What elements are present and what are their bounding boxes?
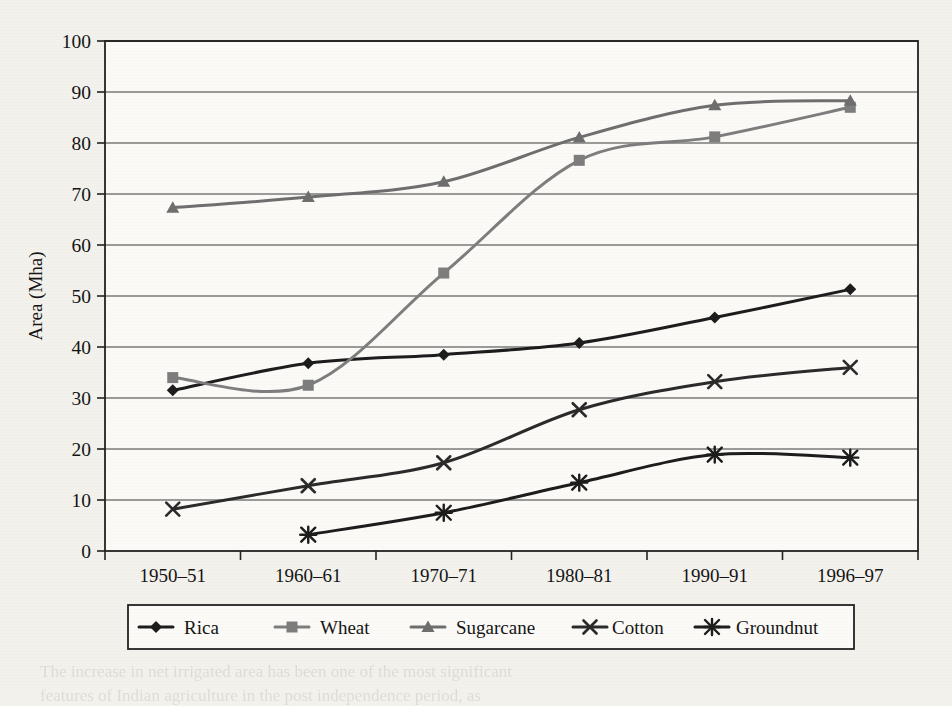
- x-tick-label-2: 1970–71: [411, 565, 478, 586]
- square-marker: [303, 380, 314, 391]
- series-wheat-marker-1: [303, 380, 314, 391]
- legend-wheat-marker-0: [287, 622, 298, 633]
- series-groundnut-marker-0: [300, 527, 316, 543]
- legend-label-cotton: Cotton: [612, 617, 664, 638]
- x-tick-label-5: 1996–97: [817, 565, 884, 586]
- x-tick-label-4: 1990–91: [682, 565, 749, 586]
- y-tick-label-50: 50: [72, 286, 92, 307]
- y-tick-label-30: 30: [72, 388, 92, 409]
- square-marker: [167, 372, 178, 383]
- x-tick-label-0: 1950–51: [140, 565, 207, 586]
- x-tick-label-3: 1980–81: [546, 565, 613, 586]
- square-marker: [709, 131, 720, 142]
- legend-groundnut-marker-0: [704, 619, 720, 635]
- legend-label-wheat: Wheat: [320, 617, 370, 638]
- y-axis-title: Area (Mha): [25, 251, 47, 340]
- legend: RicaWheatSugarcaneCottonGroundnut: [128, 605, 854, 649]
- legend-label-groundnut: Groundnut: [736, 617, 819, 638]
- square-marker: [574, 155, 585, 166]
- series-groundnut-marker-2: [571, 475, 587, 491]
- y-tick-label-10: 10: [72, 490, 92, 511]
- legend-label-sugarcane: Sugarcane: [456, 617, 535, 638]
- series-groundnut-marker-4: [842, 450, 858, 466]
- y-tick-label-0: 0: [81, 541, 91, 562]
- y-tick-label-40: 40: [72, 337, 92, 358]
- series-groundnut-marker-1: [436, 505, 452, 521]
- series-wheat-marker-4: [709, 131, 720, 142]
- y-tick-label-70: 70: [72, 184, 92, 205]
- y-axis: 0102030405060708090100: [62, 31, 105, 562]
- series-wheat-marker-2: [438, 268, 449, 279]
- y-tick-label-20: 20: [72, 439, 92, 460]
- x-axis: 1950–511960–611970–711980–811990–911996–…: [105, 551, 918, 586]
- bleed-line-10: features of Indian agriculture in the po…: [40, 686, 481, 706]
- x-tick-label-1: 1960–61: [275, 565, 342, 586]
- square-marker: [287, 622, 298, 633]
- series-wheat-marker-3: [574, 155, 585, 166]
- y-tick-label-90: 90: [72, 82, 92, 103]
- series-wheat-marker-0: [167, 372, 178, 383]
- legend-label-rica: Rica: [184, 617, 219, 638]
- series-groundnut-marker-3: [707, 447, 723, 463]
- y-tick-label-60: 60: [72, 235, 92, 256]
- y-tick-label-80: 80: [72, 133, 92, 154]
- y-tick-label-100: 100: [62, 31, 91, 52]
- square-marker: [438, 268, 449, 279]
